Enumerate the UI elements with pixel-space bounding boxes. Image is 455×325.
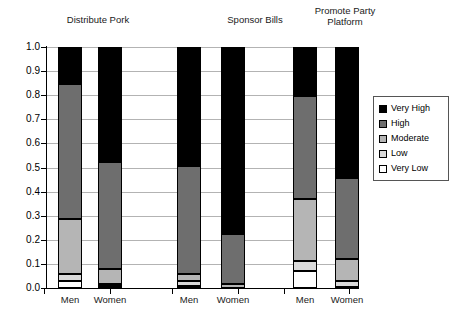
legend-label: Very High — [391, 104, 430, 113]
y-axis-line — [46, 46, 47, 289]
y-tick-label: 0.8 — [6, 90, 40, 100]
bar-segment-very_high — [335, 47, 359, 178]
y-tick-label: 1.0 — [6, 42, 40, 52]
bar-women-5 — [335, 47, 359, 288]
y-tick-label: 0.2 — [6, 235, 40, 245]
bar-segment-very_low — [58, 281, 82, 288]
y-tick-label: 0.1 — [6, 259, 40, 269]
bar-segment-very_low — [293, 271, 317, 288]
bar-segment-low — [98, 284, 122, 286]
y-tick-label: 0.0 — [6, 283, 40, 293]
group-title-distribute-pork: Distribute Pork — [38, 14, 158, 25]
bar-segment-low — [177, 281, 201, 286]
legend-label: High — [391, 119, 410, 128]
bar-segment-moderate — [177, 274, 201, 281]
x-axis-line — [44, 288, 350, 289]
y-tick-label: 0.4 — [6, 187, 40, 197]
bar-segment-moderate — [58, 219, 82, 274]
bar-segment-low — [293, 261, 317, 271]
bar-segment-high — [58, 84, 82, 218]
bar-men-0 — [58, 47, 82, 288]
bar-segment-very_high — [293, 47, 317, 96]
legend-label: Low — [391, 149, 408, 158]
x-axis-label-women-5: Women — [317, 294, 377, 305]
bar-segment-moderate — [335, 259, 359, 281]
legend-item-very-low: Very Low — [379, 161, 444, 176]
legend-label: Very Low — [391, 164, 428, 173]
bar-segment-high — [177, 166, 201, 274]
y-tick-label: 0.5 — [6, 163, 40, 173]
bar-segment-low — [335, 281, 359, 287]
group-title-promote-party-platform: Promote Party Platform — [285, 5, 405, 27]
bar-segment-moderate — [98, 269, 122, 284]
plot-area — [46, 47, 348, 288]
bar-segment-high — [293, 96, 317, 199]
y-tick-label: 0.9 — [6, 66, 40, 76]
legend-item-low: Low — [379, 146, 444, 161]
bar-segment-very_high — [221, 47, 245, 234]
legend-swatch-icon — [379, 135, 387, 143]
legend-item-moderate: Moderate — [379, 131, 444, 146]
bar-segment-very_high — [58, 47, 82, 84]
legend-swatch-icon — [379, 105, 387, 113]
y-tick-label: 0.6 — [6, 138, 40, 148]
legend-label: Moderate — [391, 134, 429, 143]
bar-segment-very_high — [98, 47, 122, 162]
bar-segment-high — [335, 178, 359, 259]
bar-men-2 — [177, 47, 201, 288]
x-axis-label-women-3: Women — [203, 294, 263, 305]
bar-segment-moderate — [293, 199, 317, 261]
y-tick-label: 0.7 — [6, 114, 40, 124]
legend-swatch-icon — [379, 120, 387, 128]
legend-item-very-high: Very High — [379, 101, 444, 116]
x-axis-label-women-1: Women — [80, 294, 140, 305]
legend-swatch-icon — [379, 150, 387, 158]
stacked-bar-chart: Distribute Pork Sponsor Bills Promote Pa… — [0, 0, 455, 325]
bar-segment-high — [221, 234, 245, 285]
bar-women-3 — [221, 47, 245, 288]
bar-segment-low — [58, 274, 82, 281]
bar-women-1 — [98, 47, 122, 288]
y-tick-label: 0.3 — [6, 211, 40, 221]
legend-item-high: High — [379, 116, 444, 131]
legend: Very HighHighModerateLowVery Low — [373, 96, 449, 181]
bar-segment-very_high — [177, 47, 201, 166]
legend-swatch-icon — [379, 165, 387, 173]
bar-segment-high — [98, 162, 122, 269]
bar-men-4 — [293, 47, 317, 288]
